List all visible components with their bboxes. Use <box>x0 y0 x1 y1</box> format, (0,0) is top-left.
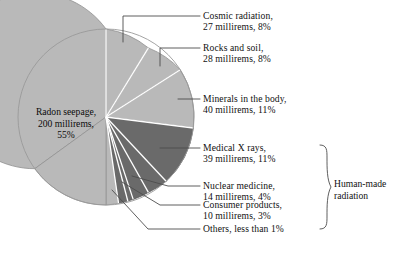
group-label-line1: Human-made <box>334 178 386 190</box>
callout-cosmic-radiation-line1: Cosmic radiation, <box>203 10 273 21</box>
callout-minerals-in-the-body-line1: Minerals in the body, <box>203 93 287 104</box>
callout-cosmic-radiation[interactable]: Cosmic radiation, 27 millirems, 8% <box>203 10 273 33</box>
human-made-radiation-group-label: Human-made radiation <box>334 178 386 201</box>
callout-medical-x-rays-line1: Medical X rays, <box>203 142 266 153</box>
callout-medical-x-rays-line2: 39 millirems, 11% <box>203 153 276 164</box>
callout-rocks-and-soil-line2: 28 millirems, 8% <box>203 53 271 64</box>
callout-cosmic-radiation-line2: 27 millirems, 8% <box>203 21 273 32</box>
callout-medical-x-rays[interactable]: Medical X rays, 39 millirems, 11% <box>203 142 276 165</box>
callout-rocks-and-soil-line1: Rocks and soil, <box>203 42 263 53</box>
pie-inner-label-line2: 200 millirems, <box>14 118 118 130</box>
pie-slices <box>0 0 194 205</box>
pie-inner-label: Radon seepage, 200 millirems, 55% <box>14 106 118 141</box>
callout-consumer-products-line2: 10 millirems, 3% <box>203 210 282 221</box>
callout-minerals-in-the-body-line2: 40 millirems, 11% <box>203 104 287 115</box>
callout-minerals-in-the-body[interactable]: Minerals in the body, 40 millirems, 11% <box>203 93 287 116</box>
pie-inner-label-line3: 55% <box>14 129 118 141</box>
pie-inner-label-line1: Radon seepage, <box>14 106 118 118</box>
human-made-brace <box>320 145 331 229</box>
callout-consumer-products-line1: Consumer products, <box>203 199 282 210</box>
callout-nuclear-medicine-line1: Nuclear medicine, <box>203 180 275 191</box>
group-label-line2: radiation <box>334 190 386 202</box>
pie-chart-figure: Radon seepage, 200 millirems, 55% Cosmic… <box>0 0 405 254</box>
callout-rocks-and-soil[interactable]: Rocks and soil, 28 millirems, 8% <box>203 42 271 65</box>
callout-consumer-products[interactable]: Consumer products, 10 millirems, 3% <box>203 199 282 222</box>
callout-others[interactable]: Others, less than 1% <box>203 223 284 234</box>
callout-others-line1: Others, less than 1% <box>203 223 284 234</box>
